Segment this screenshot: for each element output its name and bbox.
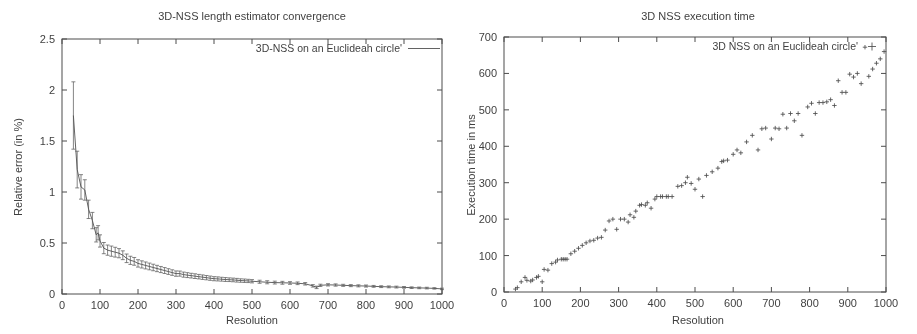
chart-panel-execution-time: 3D NSS execution time 010020030040050060…	[458, 0, 916, 334]
y-tick-label: 0	[49, 288, 55, 300]
x-axis-label-convergence: Resolution	[226, 314, 278, 326]
x-tick-label: 900	[395, 299, 413, 311]
plot-frame	[504, 37, 886, 292]
x-tick-label: 1000	[874, 297, 898, 309]
y-tick-label: 0	[491, 286, 497, 298]
y-tick-label: 1.5	[40, 135, 55, 147]
x-tick-label: 500	[243, 299, 261, 311]
x-tick-label: 200	[571, 297, 589, 309]
y-tick-label: 300	[479, 177, 497, 189]
y-axis-label-execution-time: Execution time in ms	[465, 114, 477, 216]
x-tick-label: 200	[129, 299, 147, 311]
legend-label-execution-time: 3D NSS on an Euclideah circle'	[712, 40, 858, 52]
y-tick-label: 700	[479, 31, 497, 43]
legend-label-convergence: 3D-NSS on an Euclideah circle'	[256, 42, 402, 54]
plot-area-convergence	[71, 82, 444, 290]
x-axis-label-execution-time: Resolution	[672, 314, 724, 326]
x-tick-label: 0	[501, 297, 507, 309]
figure-container: 3D-NSS length estimator convergence 0100…	[0, 0, 917, 334]
chart-title-convergence: 3D-NSS length estimator convergence	[158, 10, 346, 22]
y-tick-label: 2	[49, 84, 55, 96]
x-tick-label: 800	[800, 297, 818, 309]
x-tick-label: 500	[686, 297, 704, 309]
x-tick-label: 700	[319, 299, 337, 311]
chart-panel-convergence: 3D-NSS length estimator convergence 0100…	[0, 0, 458, 334]
data-series-line	[73, 116, 442, 289]
x-tick-label: 800	[357, 299, 375, 311]
x-tick-label: 400	[648, 297, 666, 309]
y-tick-label: 100	[479, 250, 497, 262]
chart-title-execution-time: 3D NSS execution time	[641, 10, 755, 22]
y-tick-label: 1	[49, 186, 55, 198]
legend-plus-marker	[868, 43, 876, 51]
legend-convergence: 3D-NSS on an Euclideah circle'	[256, 42, 440, 54]
y-tick-label: 0.5	[40, 237, 55, 249]
x-tick-label: 100	[533, 297, 551, 309]
x-tick-label: 900	[839, 297, 857, 309]
y-tick-label: 500	[479, 104, 497, 116]
legend-execution-time: 3D NSS on an Euclideah circle'	[712, 40, 876, 52]
axes-execution-time: 0100200300400500600700800900100001002003…	[479, 31, 899, 309]
y-tick-label: 400	[479, 140, 497, 152]
x-tick-label: 700	[762, 297, 780, 309]
axes-convergence: 0100200300400500600700800900100000.511.5…	[40, 33, 455, 311]
x-tick-label: 600	[724, 297, 742, 309]
plot-area-execution-time	[513, 45, 886, 291]
y-axis-label-convergence: Relative error (in %)	[12, 118, 24, 216]
x-tick-label: 1000	[430, 299, 454, 311]
x-tick-label: 400	[205, 299, 223, 311]
y-tick-label: 2.5	[40, 33, 55, 45]
x-tick-label: 0	[59, 299, 65, 311]
y-tick-label: 200	[479, 213, 497, 225]
x-tick-label: 300	[609, 297, 627, 309]
x-tick-label: 100	[91, 299, 109, 311]
data-series-points	[513, 45, 886, 291]
x-tick-label: 600	[281, 299, 299, 311]
x-tick-label: 300	[167, 299, 185, 311]
y-tick-label: 600	[479, 67, 497, 79]
